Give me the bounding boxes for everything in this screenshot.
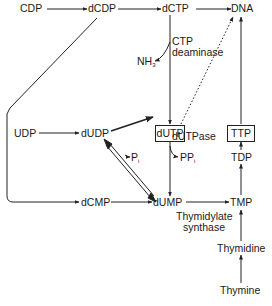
edge-ppi-release [170,146,178,157]
node-cdp: CDP [20,3,42,14]
node-dna: DNA [231,3,253,14]
node-thymine: Thymine [220,285,260,296]
node-tdp: TDP [231,152,252,163]
byproduct-ppi: PPi [180,152,195,167]
byproduct-pi: Pi [131,152,139,167]
node-udp: UDP [14,128,36,139]
node-dctp: dCTP [162,3,189,14]
node-dcmp: dCMP [81,197,110,208]
edge-nh3-release [155,42,170,61]
enzyme-ctp-deaminase-line2: deaminase [172,47,223,58]
pi-subscript: i [138,158,139,164]
nh3-text: NH [137,55,152,67]
enzyme-dutpase: dUTPase [172,131,216,142]
pi-text: P [131,151,138,163]
node-tmp: TMP [230,197,252,208]
node-dcdp: dCDP [88,3,116,14]
node-dudp: dUDP [81,128,109,139]
node-ttp: TTP [227,125,255,142]
node-dump: dUMP [153,197,182,208]
ppi-subscript: i [194,158,195,164]
edge-dudp-dutp [111,117,153,131]
edge-dudp-dump-head-start [104,139,112,149]
pathway-diagram: CDP dCDP dCTP DNA CTP deaminase NH3 dUTP… [0,0,272,306]
nh3-subscript: 3 [152,62,155,68]
edge-dutp-dna [181,17,233,124]
ppi-text: PP [180,151,194,163]
edge-pi-arrow [125,155,130,157]
edge-dudp-dump-b [106,145,151,198]
edge-dcdp-dcmp [7,18,97,202]
byproduct-nh3: NH3 [137,56,156,71]
node-thymidine: Thymidine [217,243,265,254]
enzyme-thymidylate-synthase-line2: synthase [183,222,225,233]
